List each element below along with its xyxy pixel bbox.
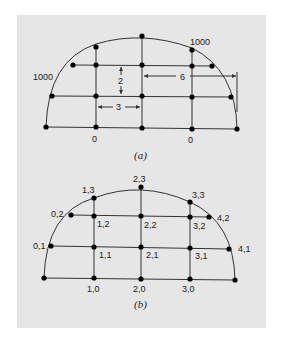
caption-b: (b) <box>134 298 147 311</box>
label-node-3-3: 3,3 <box>192 190 205 200</box>
label-boundary-left: 1000 <box>33 72 53 82</box>
label-node-1-3: 1,3 <box>82 185 95 195</box>
label-node-0-1: 0,1 <box>33 241 46 251</box>
label-dimension-2: 2 <box>118 76 123 86</box>
caption-a: (a) <box>134 149 147 162</box>
label-node-2-2: 2,2 <box>144 220 157 230</box>
label-node-1-1: 1,1 <box>99 250 112 260</box>
label-node-0-2: 0,2 <box>51 209 64 219</box>
nodes-b <box>41 184 237 282</box>
label-node-1-0: 1,0 <box>87 284 100 294</box>
label-bottom-left: 0 <box>92 134 97 144</box>
label-dimension-3: 3 <box>116 102 121 112</box>
label-node-2-0: 2,0 <box>133 284 146 294</box>
label-node-4-1: 4,1 <box>238 244 251 254</box>
label-node-2-1: 2,1 <box>146 250 159 260</box>
label-node-3-1: 3,1 <box>195 251 208 261</box>
label-dimension-6: 6 <box>180 72 185 82</box>
label-node-4-2: 4,2 <box>217 213 230 223</box>
label-node-3-0: 3,0 <box>182 284 195 294</box>
grid-diagrams: 2 3 6 <box>0 0 282 343</box>
label-boundary-right: 1000 <box>190 37 210 47</box>
label-node-2-3: 2,3 <box>133 174 146 184</box>
label-node-1-2: 1,2 <box>97 219 110 229</box>
diagram-a: 2 3 6 <box>33 33 240 162</box>
label-bottom-right: 0 <box>188 135 193 145</box>
semicircle-boundary-b <box>44 190 235 280</box>
label-node-3-2: 3,2 <box>193 221 206 231</box>
diagram-b: 0,1 0,2 1,3 1,2 1,1 1,0 2,3 2,2 2,1 2,0 … <box>33 174 251 311</box>
